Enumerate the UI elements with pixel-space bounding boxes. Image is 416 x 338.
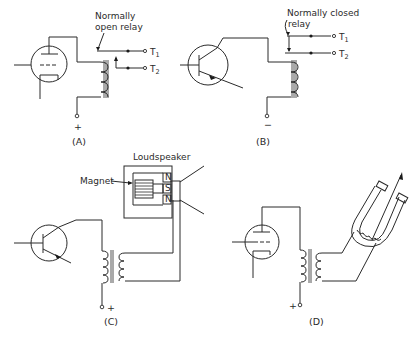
svg-text:T2: T2 (338, 49, 349, 61)
supply-terminal (100, 305, 104, 309)
annotation-line-1: Normally (95, 11, 136, 21)
collector-wire (43, 220, 102, 238)
annotation-line-2: relay (288, 19, 311, 29)
panel-a: + (A) T1 T2 Normally open relay (14, 11, 160, 147)
pole-n-bottom: N (165, 194, 172, 204)
cathode (40, 75, 58, 99)
speaker-cone (180, 166, 204, 182)
needle-arrow-icon (399, 172, 403, 180)
supply-terminal (265, 114, 269, 118)
circuit-diagram-figure: + (A) T1 T2 Normally open relay (0, 0, 416, 338)
panel-caption-c: (C) (104, 316, 118, 327)
panel-c: + (C) N S N Loudspeaker Magnet (14, 152, 204, 327)
pole-n-top: N (165, 172, 172, 182)
annotation-line-1: Normally closed (287, 8, 359, 18)
panel-d: + (D) (232, 172, 408, 327)
emitter (199, 71, 243, 88)
plate-wire (262, 207, 300, 250)
loudspeaker-label: Loudspeaker (133, 152, 191, 162)
svg-text:T1: T1 (338, 32, 349, 44)
leader-line (98, 33, 104, 49)
collector-wire (199, 38, 252, 60)
panel-b: − (B) T1 T2 Normally closed relay (180, 8, 359, 147)
svg-text:T1: T1 (149, 47, 160, 59)
panel-caption-b: (B) (256, 136, 270, 147)
loudspeaker-icon (124, 166, 204, 218)
transformer-icon (102, 250, 125, 283)
magnet-label: Magnet (80, 176, 114, 186)
transformer-icon (300, 249, 322, 283)
terminal-t2 (332, 51, 335, 54)
supply-polarity-label: + (289, 300, 297, 311)
terminal-t2 (143, 66, 146, 69)
contact-arrow-icon (287, 48, 291, 52)
plate-wire (49, 37, 100, 62)
magnet-leader (111, 181, 130, 183)
relay-coil-icon (100, 60, 108, 98)
relay-coil-icon (290, 60, 298, 98)
open-contact (116, 58, 143, 68)
annotation-line-2: open relay (95, 22, 143, 32)
supply-polarity-label: − (264, 119, 272, 130)
supply-terminal (298, 303, 302, 307)
pole-s: S (165, 183, 171, 193)
contact-arrow-icon (114, 56, 118, 61)
terminal-t1 (332, 34, 335, 37)
terminal-t1 (143, 49, 146, 52)
supply-polarity-label: + (107, 302, 115, 313)
supply-terminal (75, 114, 79, 118)
panel-caption-a: (A) (72, 136, 86, 147)
horseshoe-magnet-icon (352, 172, 408, 247)
supply-wire (77, 97, 101, 114)
panel-caption-d: (D) (309, 316, 324, 327)
emitter-arrow-icon (55, 254, 61, 259)
supply-polarity-label: + (74, 121, 82, 132)
cathode (253, 251, 270, 278)
svg-text:T2: T2 (149, 64, 160, 76)
